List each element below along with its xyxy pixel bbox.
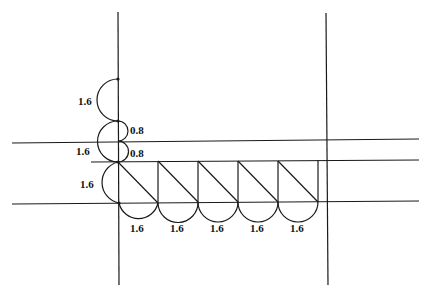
left-arc-3: [102, 162, 119, 203]
right-arc-2-label: 0.8: [130, 147, 144, 159]
left-arc-1-label: 1.6: [78, 95, 92, 107]
bottom-arc-3: [198, 202, 238, 222]
bottom-horizontal-line: [12, 201, 419, 204]
left-arc-3-label: 1.6: [80, 178, 94, 190]
top-horizontal-line: [12, 139, 419, 143]
bottom-arc-3-label: 1.6: [210, 222, 224, 234]
right-arc-1: [118, 121, 128, 141]
diagonal-segment: [198, 161, 238, 202]
left-vertical-line: [118, 12, 119, 285]
bottom-arc-4-label: 1.6: [250, 222, 264, 234]
bottom-arc-2-label: 1.6: [170, 222, 184, 234]
right-vertical-line: [326, 13, 328, 285]
bottom-arc-4: [238, 202, 278, 222]
node-dot: [116, 119, 119, 122]
bottom-arc-1-label: 1.6: [130, 222, 144, 234]
bottom-arc-2: [158, 202, 198, 222]
node-dot: [116, 77, 119, 80]
diagonal-segment: [158, 161, 198, 202]
middle-horizontal-line: [91, 160, 419, 162]
right-arc-2: [118, 141, 129, 162]
left-arc-2-label: 1.6: [76, 145, 90, 157]
diagonal-segment: [118, 162, 158, 203]
bottom-arc-5-label: 1.6: [290, 222, 304, 234]
right-arc-1-label: 0.8: [130, 124, 144, 136]
diagram-canvas: 1.6 1.6 1.6 0.8 0.8 1.6 1.6 1.6 1.6 1.6: [0, 0, 428, 292]
diagonal-segment: [238, 161, 278, 202]
diagonal-segment: [278, 161, 318, 202]
bottom-arc-5: [278, 202, 318, 222]
left-arc-1: [97, 79, 118, 121]
bottom-arc-1: [119, 203, 158, 219]
